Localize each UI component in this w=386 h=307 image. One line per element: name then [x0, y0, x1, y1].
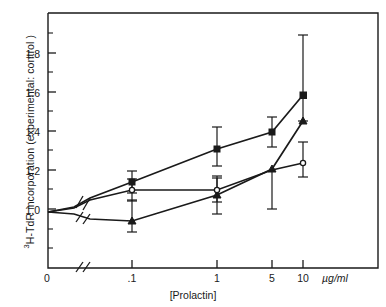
series-filled-square [48, 35, 308, 212]
figure-canvas: 3H-TdR incorporation (experimental: cont… [0, 0, 386, 307]
plot-frame [48, 13, 378, 268]
y-axis-minor-ticks [48, 33, 53, 248]
error-bars-square [127, 35, 308, 193]
x-axis-break-icon [76, 262, 90, 272]
y-axis-major-ticks [48, 53, 56, 209]
series-filled-triangle [48, 117, 307, 232]
x-axis-ticks [132, 260, 303, 268]
markers-filled-square [129, 92, 307, 185]
plot-svg [0, 0, 386, 307]
error-bars-triangle [127, 169, 277, 232]
line-break-icon-bottom [76, 212, 90, 224]
series-open-circle [48, 142, 308, 212]
